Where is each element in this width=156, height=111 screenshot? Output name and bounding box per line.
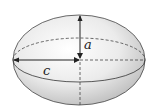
ellipsoid-diagram: a c: [0, 0, 156, 111]
label-a: a: [84, 37, 92, 52]
label-c: c: [43, 63, 51, 78]
